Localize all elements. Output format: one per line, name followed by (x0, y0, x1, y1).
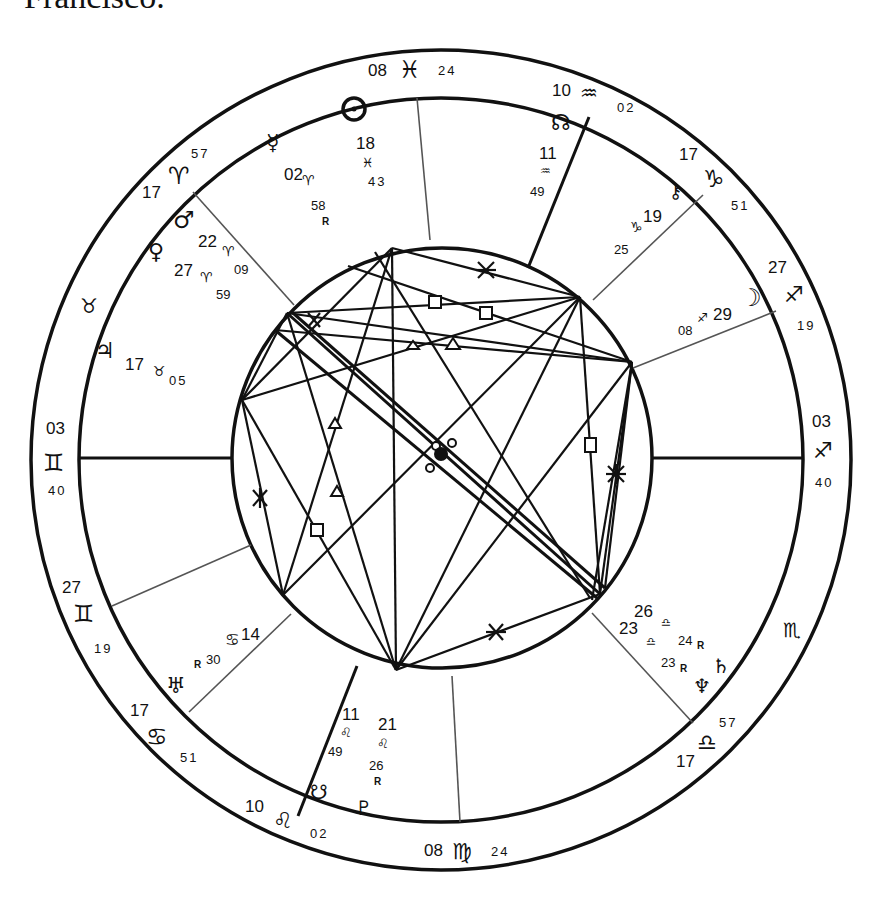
cusp-asc: 03 ♊ 40 (43, 419, 66, 498)
planet-degree: 11 (539, 144, 557, 163)
cusp-mc: 08 ♓ 24 (368, 56, 456, 84)
cusp-ic: 08 ♍ 24 (424, 839, 509, 864)
cusp-degree: 03 (812, 412, 831, 431)
retrograde-icon: R (194, 659, 202, 670)
virgo-icon: ♍ (452, 839, 472, 864)
venus-icon: ♀ (148, 239, 164, 264)
capricorn-icon: ♑ (703, 165, 725, 193)
sagittarius-icon: ♐ (697, 311, 708, 325)
planet-moon[interactable]: ☽ 29 ♐ 08 (678, 284, 762, 338)
saturn-icon: ♄ (712, 654, 730, 678)
cusp-degree: 17 (679, 145, 698, 164)
retrograde-icon: R (322, 216, 330, 227)
aries-icon: ♈ (168, 162, 190, 190)
sextile-aspect-icon (308, 313, 320, 327)
h7-cusp-left (112, 545, 251, 606)
pisces-icon: ♓ (362, 155, 374, 170)
planet-minute: 43 (368, 174, 386, 189)
cusp-minute: 24 (438, 63, 456, 78)
cusp-minute: 02 (617, 100, 635, 115)
mercury-icon: ☿ (266, 130, 280, 155)
cusp-minute: 24 (491, 844, 509, 859)
cusp-minute: 40 (48, 483, 66, 498)
conjunction-marker-icon (426, 464, 434, 472)
planet-degree: 19 (643, 207, 662, 226)
planet-minute: 49 (530, 184, 544, 199)
natal-chart-wheel: 08 ♓ 24 10 ♒ 02 17 ♑ 51 27 ♐ 19 03 ♐ 40 … (0, 0, 876, 907)
cusp-degree: 08 (368, 61, 387, 80)
planet-minute: 26 (369, 758, 383, 773)
planet-degree: 29 (713, 305, 732, 324)
planet-degree: 21 (378, 715, 397, 734)
cusp-libra: 57 ♎ 17 (676, 715, 737, 771)
cusp-cancer: 17 ♋ 51 (130, 701, 198, 765)
cusp-degree: 03 (46, 419, 65, 438)
planet-minute: 09 (234, 262, 248, 277)
planet-north-node[interactable]: ☊ 11 ♒ 49 (530, 110, 571, 199)
taurus-icon: ♉ (80, 294, 98, 318)
mc-cusp (417, 98, 430, 240)
sextile-aspect-icon (253, 488, 267, 508)
cusp-degree: 27 (768, 258, 787, 277)
sextile-aspect-icon (476, 262, 496, 278)
aspect-hub (434, 447, 448, 461)
sextile-aspect-icon (486, 624, 506, 640)
sagittarius-icon: ♐ (784, 282, 804, 307)
cusp-degree: 10 (552, 81, 571, 100)
cusp-degree: 17 (130, 701, 149, 720)
planet-degree: 11 (342, 705, 360, 724)
planet-pluto[interactable]: 21 ♌ 26 R ♇ (355, 715, 397, 820)
aspect-line (293, 313, 605, 588)
north-node-icon: ☊ (551, 110, 571, 135)
planet-degree: 02 (284, 165, 303, 184)
square-aspect-icon (429, 296, 441, 308)
cusp-degree: 17 (142, 183, 161, 202)
planet-venus[interactable]: ♀ 27 ♈ 59 (148, 239, 230, 302)
sextile-aspect-icon (606, 464, 626, 484)
aspect-line (242, 313, 287, 400)
cusp-minute: 19 (797, 318, 815, 333)
trine-aspect-icon (446, 338, 460, 349)
aspect-line (392, 248, 396, 670)
aries-icon: ♈ (222, 243, 235, 259)
planet-minute: 24 (678, 633, 692, 648)
jupiter-icon: ♃ (95, 338, 115, 363)
planet-uranus[interactable]: ♅ R 30 ♋ 14 (166, 625, 260, 698)
cusp-degree: 17 (676, 752, 695, 771)
cancer-icon: ♋ (225, 630, 239, 649)
scorpio-icon: ♏ (783, 618, 801, 642)
leo-icon: ♌ (340, 725, 352, 740)
retrograde-icon: R (680, 663, 688, 674)
libra-icon: ♎ (661, 616, 671, 629)
planet-chiron[interactable]: ⚷ 19 ♑ 25 (614, 181, 682, 257)
planet-mercury[interactable]: ☿ 02 ♈ 58 R (266, 130, 330, 227)
uranus-icon: ♅ (166, 673, 186, 698)
planet-minute: 59 (216, 287, 230, 302)
planet-minute: 25 (614, 242, 628, 257)
planet-jupiter[interactable]: ♃ 17 ♉ 05 (95, 338, 187, 388)
planet-degree: 17 (125, 355, 144, 374)
gemini-icon: ♊ (43, 449, 65, 477)
planet-minute: 30 (206, 652, 220, 667)
h6-cusp (189, 614, 291, 712)
planet-sun[interactable]: 18 ♓ 43 (343, 98, 386, 189)
cancer-icon: ♋ (146, 723, 168, 751)
aries-icon: ♈ (302, 172, 315, 188)
cusp-degree: 10 (245, 797, 264, 816)
cusp-minute: 57 (719, 715, 737, 730)
libra-icon: ♎ (646, 635, 656, 648)
aquarius-icon: ♒ (580, 81, 598, 105)
aspect-line (592, 362, 632, 600)
pisces-icon: ♓ (399, 56, 421, 84)
aries-icon: ♈ (200, 269, 213, 285)
cusp-minute: 19 (94, 641, 112, 656)
chiron-icon: ⚷ (669, 181, 682, 202)
cusp-minute: 51 (731, 198, 749, 213)
moon-icon: ☽ (740, 284, 762, 312)
neptune-icon: ♆ (693, 674, 711, 698)
square-aspect-icon (480, 307, 492, 319)
cusp-degree: 08 (424, 841, 443, 860)
leo-icon: ♌ (377, 736, 389, 751)
cusp-minute: 02 (310, 826, 328, 841)
cusp-aries: 17 ♈ 57 (142, 146, 209, 202)
